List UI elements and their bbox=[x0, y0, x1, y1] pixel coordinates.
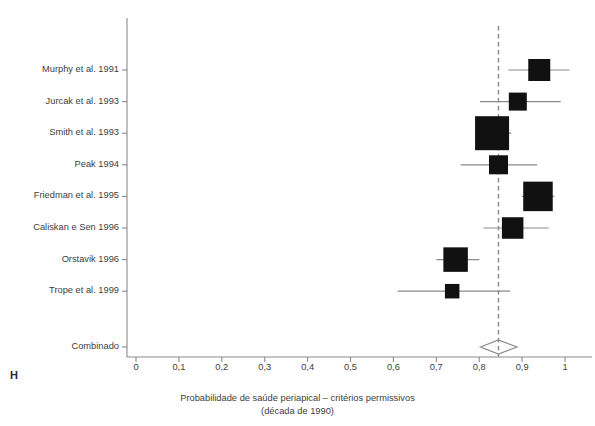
x-axis-tick-label: 0,4 bbox=[301, 362, 314, 372]
x-axis-tick-label: 0,8 bbox=[473, 362, 486, 372]
study-label: Smith et al. 1993 bbox=[49, 129, 119, 138]
panel-letter: H bbox=[10, 369, 18, 381]
study-label: Peak 1994 bbox=[75, 160, 119, 169]
forest-plot-figure: H Murphy et al. 1991Jurcak et al. 1993Sm… bbox=[0, 0, 595, 426]
effect-size-marker bbox=[509, 93, 527, 111]
effect-size-marker bbox=[489, 155, 508, 174]
x-axis-tick-label: 1 bbox=[562, 362, 567, 372]
study-label: Friedman et al. 1995 bbox=[34, 192, 119, 201]
study-label: Murphy et al. 1991 bbox=[42, 65, 119, 74]
study-label: Jurcak et al. 1993 bbox=[46, 97, 119, 106]
figure-caption: Probabilidade de saúde periapical – crit… bbox=[0, 392, 595, 417]
x-axis-tick-label: 0,9 bbox=[516, 362, 529, 372]
effect-size-marker bbox=[475, 116, 509, 150]
x-axis-tick-label: 0,3 bbox=[258, 362, 271, 372]
study-label: Trope et al. 1999 bbox=[49, 287, 119, 296]
x-axis-tick-label: 0,1 bbox=[172, 362, 185, 372]
study-label: Orstavik 1996 bbox=[62, 255, 119, 264]
study-label: Caliskan e Sen 1996 bbox=[33, 223, 119, 232]
x-axis-tick-label: 0,2 bbox=[215, 362, 228, 372]
effect-size-marker bbox=[445, 284, 460, 299]
x-axis-tick-label: 0,5 bbox=[344, 362, 357, 372]
effect-size-marker bbox=[502, 217, 524, 239]
x-axis-tick-label: 0,7 bbox=[430, 362, 443, 372]
effect-size-marker bbox=[528, 59, 550, 81]
effect-size-marker bbox=[523, 182, 553, 212]
caption-line-1: Probabilidade de saúde periapical – crit… bbox=[180, 393, 415, 403]
x-axis-tick-label: 0 bbox=[133, 362, 138, 372]
summary-label: Combinado bbox=[71, 342, 119, 351]
effect-size-marker bbox=[443, 247, 468, 272]
caption-line-2: (década de 1990) bbox=[0, 405, 595, 418]
x-axis-tick-label: 0,6 bbox=[387, 362, 400, 372]
